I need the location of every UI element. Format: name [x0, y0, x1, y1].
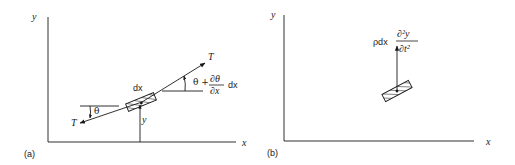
x-axis-label: x	[485, 136, 491, 147]
string-element	[126, 93, 157, 112]
panel-b: y x (b) ρdx ∂²y ∂t²	[267, 9, 491, 158]
panel-caption: (a)	[24, 149, 35, 159]
x-axis-label: x	[241, 137, 247, 148]
displacement-label: y	[141, 114, 147, 125]
y-axis-label: y	[270, 9, 276, 20]
string-element-diagram: y x (a) T T dx y θ θ + ∂θ ∂x dx y	[0, 0, 515, 165]
y-axis-label: y	[31, 11, 37, 22]
panel-caption: (b)	[267, 148, 278, 158]
force-fraction-denominator: ∂t²	[399, 43, 411, 54]
right-angle-prefix: θ +	[193, 77, 209, 87]
element-length-label: dx	[133, 83, 143, 93]
left-angle-label: θ	[94, 106, 99, 116]
panel-a: y x (a) T T dx y θ θ + ∂θ ∂x dx	[24, 11, 247, 159]
right-angle-arc	[184, 76, 185, 91]
left-angle-arc	[90, 106, 91, 118]
right-angle-fraction-denominator: ∂x	[210, 85, 220, 96]
force-fraction-numerator: ∂²y	[397, 28, 410, 39]
right-angle-fraction-numerator: ∂θ	[210, 73, 220, 84]
tension-right-label: T	[208, 51, 215, 62]
force-prefix: ρdx	[373, 37, 388, 47]
tension-left-label: T	[71, 117, 78, 128]
right-angle-suffix: dx	[228, 80, 238, 90]
